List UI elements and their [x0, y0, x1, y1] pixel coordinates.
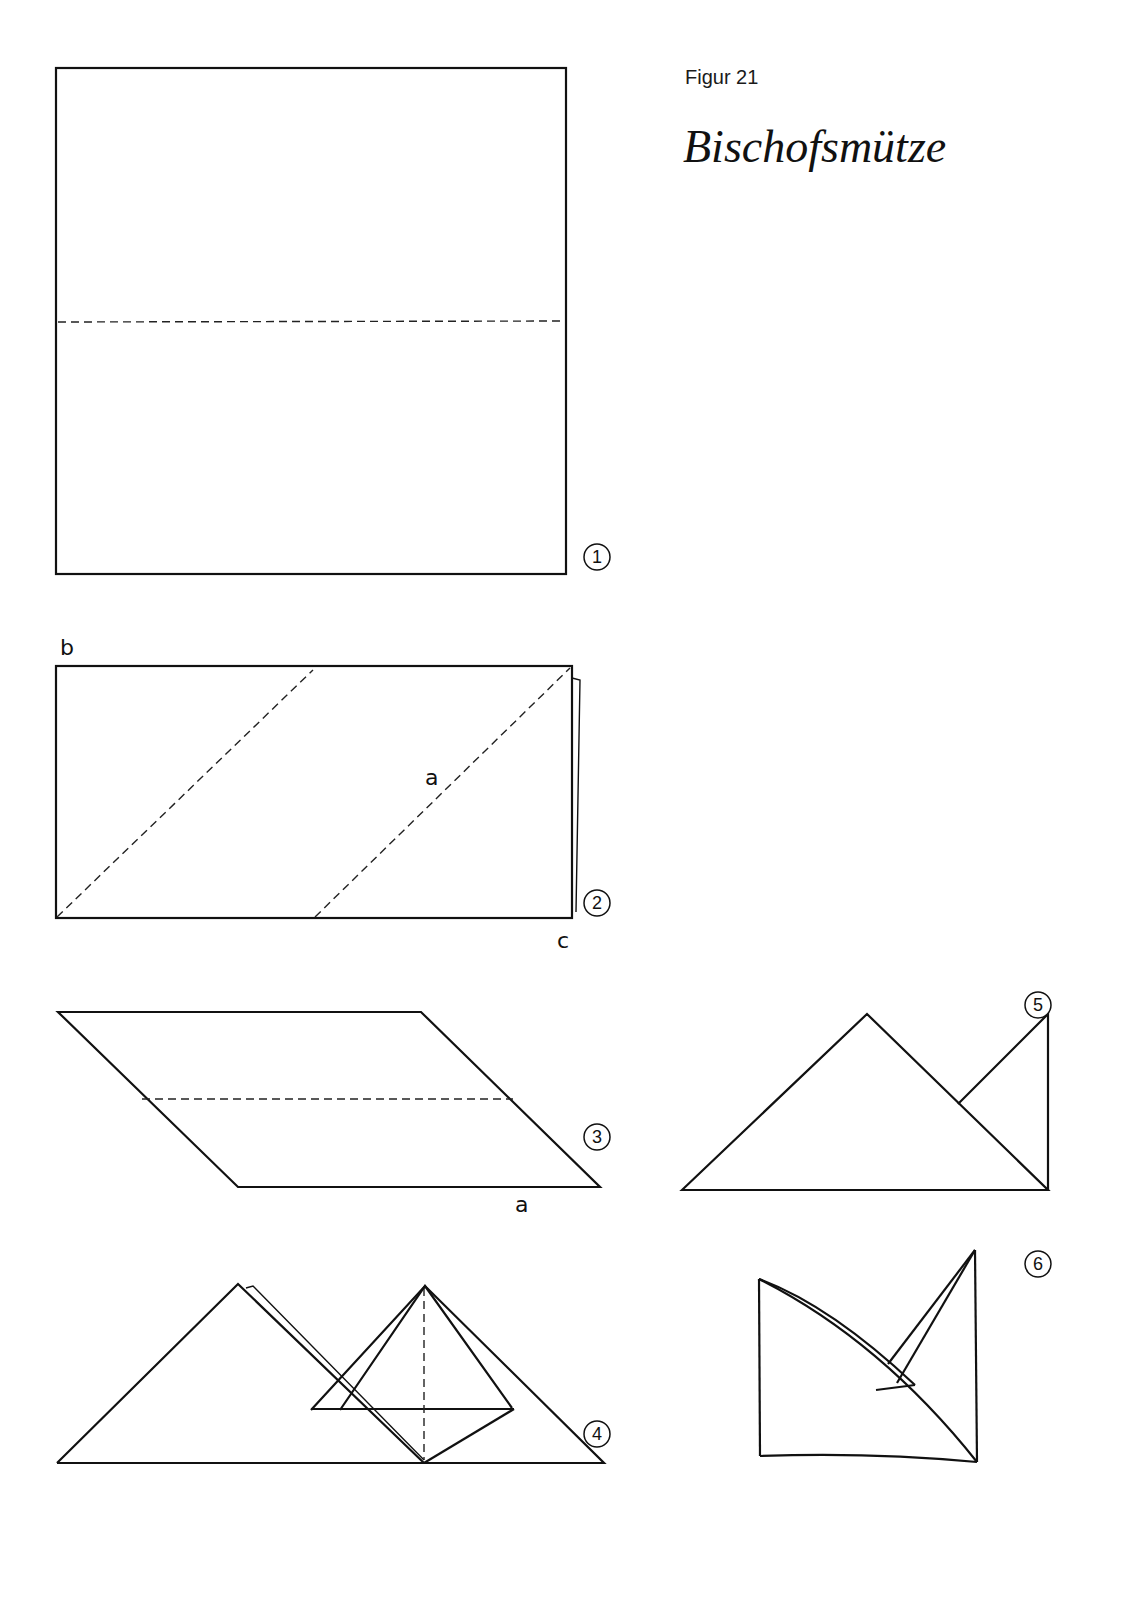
svg-text:6: 6: [1033, 1254, 1043, 1274]
svg-text:3: 3: [592, 1127, 602, 1147]
point-label-b: b: [60, 635, 74, 660]
svg-text:2: 2: [592, 893, 602, 913]
step-4-number: 4: [584, 1421, 610, 1447]
svg-text:4: 4: [592, 1424, 602, 1444]
step-5-number: 5: [1025, 992, 1051, 1018]
point-label-c: c: [557, 928, 569, 953]
point-label-a-step3: a: [515, 1192, 528, 1217]
step-6-drawing: [759, 1250, 977, 1462]
step-6-number: 6: [1025, 1251, 1051, 1277]
folding-diagram: 1 b a c 2 a 3 4: [0, 0, 1129, 1608]
step-1-drawing: [56, 68, 566, 574]
step-2-number: 2: [584, 890, 610, 916]
step-3-drawing: [58, 1012, 600, 1187]
step-2-drawing: [56, 666, 580, 918]
svg-text:5: 5: [1033, 995, 1043, 1015]
svg-text:1: 1: [592, 547, 602, 567]
step-3-number: 3: [584, 1124, 610, 1150]
point-label-a: a: [425, 765, 438, 790]
step-4-drawing: [57, 1284, 604, 1463]
step-5-drawing: [682, 1014, 1048, 1190]
step-1-number: 1: [584, 544, 610, 570]
